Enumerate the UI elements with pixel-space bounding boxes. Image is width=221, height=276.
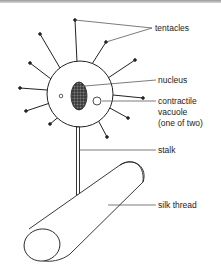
- nucleus: [71, 82, 87, 110]
- small-vacuole: [59, 94, 63, 98]
- silk-thread: [21, 162, 144, 264]
- stalk: [77, 127, 80, 195]
- contractile-vacuole: [93, 97, 101, 105]
- label-vacuole-line3: (one of two): [158, 118, 203, 128]
- label-stalk: stalk: [158, 145, 176, 155]
- label-tentacles: tentacles: [155, 23, 189, 33]
- label-vacuole-line1: contractile: [158, 96, 197, 106]
- label-silk-thread: silk thread: [158, 200, 197, 210]
- label-vacuole-line2: vacuole: [158, 107, 188, 117]
- label-nucleus: nucleus: [158, 75, 187, 85]
- organism-diagram: tentacles nucleus contractile vacuole (o…: [0, 0, 221, 276]
